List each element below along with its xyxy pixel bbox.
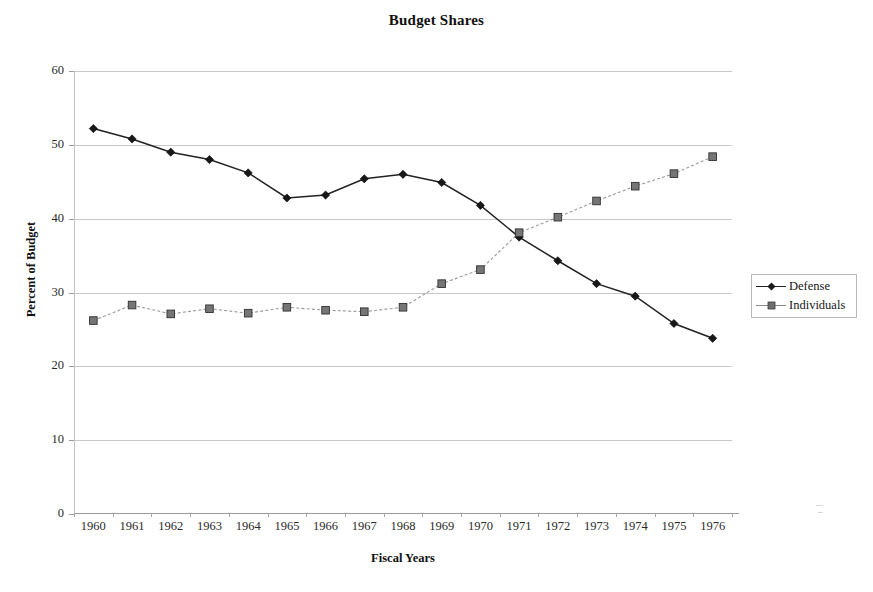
legend-label-individuals: Individuals <box>789 298 845 313</box>
data-point-square <box>631 182 639 190</box>
data-point-diamond <box>167 148 175 156</box>
data-point-square <box>709 153 717 161</box>
y-tick-label: 0 <box>30 506 64 521</box>
y-tick-label: 10 <box>30 432 64 447</box>
data-point-square <box>167 310 175 318</box>
y-tick-label: 60 <box>30 63 64 78</box>
x-tick-label: 1969 <box>420 519 464 534</box>
x-tick-label: 1963 <box>187 519 231 534</box>
x-tick-label: 1968 <box>381 519 425 534</box>
data-point-square <box>670 170 678 178</box>
x-tick-label: 1971 <box>497 519 541 534</box>
x-tick-label: 1974 <box>613 519 657 534</box>
x-axis-title: Fiscal Years <box>74 551 732 566</box>
legend-label-defense: Defense <box>789 279 830 294</box>
data-point-square <box>438 280 446 288</box>
data-point-square <box>90 317 98 325</box>
x-tick-label: 1964 <box>226 519 270 534</box>
x-tick-label: 1966 <box>304 519 348 534</box>
x-tick-label: 1975 <box>652 519 696 534</box>
scan-artifact <box>818 512 823 513</box>
data-point-diamond <box>709 334 717 342</box>
data-point-diamond <box>244 169 252 177</box>
series-line-individuals <box>93 157 712 321</box>
data-point-square <box>399 303 407 311</box>
x-tick-label: 1976 <box>691 519 735 534</box>
legend-item-individuals: Individuals <box>756 296 845 314</box>
x-tick-label: 1970 <box>458 519 502 534</box>
series-layer <box>74 71 732 514</box>
chart-title: Budget Shares <box>0 12 873 29</box>
data-point-square <box>244 309 252 317</box>
y-tick-label: 20 <box>30 358 64 373</box>
data-point-diamond <box>438 178 446 186</box>
data-point-square <box>515 229 523 237</box>
scan-artifact <box>816 505 823 506</box>
y-tick-label: 50 <box>30 137 64 152</box>
x-tick-label: 1960 <box>71 519 115 534</box>
plot-area <box>74 71 732 514</box>
x-tick-label: 1965 <box>265 519 309 534</box>
data-point-square <box>283 303 291 311</box>
budget-shares-chart: Budget Shares Percent of Budget 01020304… <box>0 0 873 592</box>
x-tick-label: 1972 <box>536 519 580 534</box>
x-tick-label: 1962 <box>149 519 193 534</box>
data-point-diamond <box>592 280 600 288</box>
data-point-square <box>360 308 368 316</box>
data-point-diamond <box>128 135 136 143</box>
y-tick-label: 40 <box>30 211 64 226</box>
data-point-square <box>477 266 485 274</box>
x-tick-label: 1973 <box>575 519 619 534</box>
y-tick-label: 30 <box>30 285 64 300</box>
data-point-diamond <box>89 124 97 132</box>
data-point-square <box>322 306 330 314</box>
data-point-square <box>128 301 136 309</box>
data-point-diamond <box>399 170 407 178</box>
data-point-square <box>593 197 601 205</box>
data-point-square <box>206 305 214 313</box>
data-point-diamond <box>360 175 368 183</box>
legend: Defense Individuals <box>751 274 857 318</box>
data-point-square <box>554 213 562 221</box>
legend-item-defense: Defense <box>756 277 830 295</box>
data-point-diamond <box>321 191 329 199</box>
x-tick-label: 1967 <box>342 519 386 534</box>
data-point-diamond <box>205 156 213 164</box>
legend-line-marker-square-icon <box>756 299 786 311</box>
legend-line-marker-diamond-icon <box>756 280 786 292</box>
x-tick-mark <box>732 513 733 517</box>
data-point-diamond <box>554 257 562 265</box>
data-point-diamond <box>283 194 291 202</box>
x-tick-label: 1961 <box>110 519 154 534</box>
